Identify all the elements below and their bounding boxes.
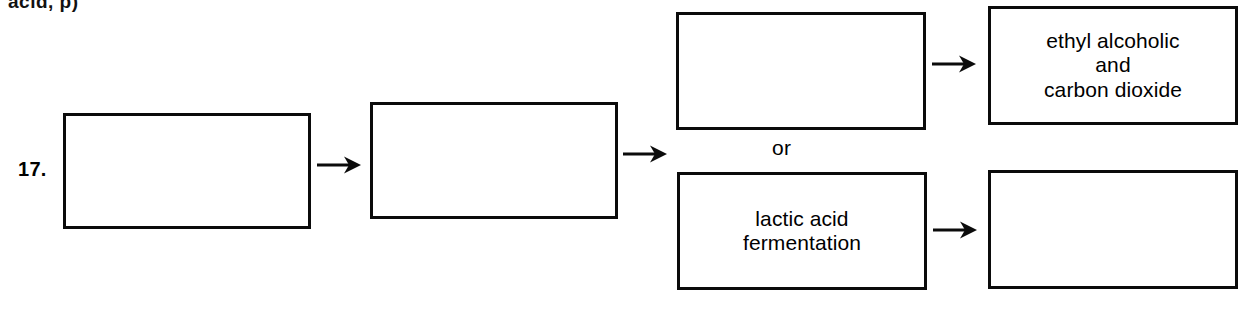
label-box-ethyl-alcohol-carbon-dioxide[interactable]: ethyl alcoholic and carbon dioxide bbox=[988, 6, 1238, 125]
answer-box-3[interactable] bbox=[676, 12, 926, 130]
cut-off-text-fragment: acid, p) bbox=[8, 0, 79, 13]
label-box-lactic-acid-fermentation-text: lactic acid fermentation bbox=[737, 207, 867, 256]
answer-box-6[interactable] bbox=[988, 170, 1238, 289]
answer-box-2[interactable] bbox=[370, 102, 618, 219]
arrow-right-icon-2 bbox=[622, 143, 670, 165]
arrow-right-icon-1 bbox=[316, 154, 364, 176]
item-number-label: 17. bbox=[18, 158, 47, 181]
label-box-lactic-acid-fermentation[interactable]: lactic acid fermentation bbox=[677, 172, 927, 290]
label-box-ethyl-alcohol-carbon-dioxide-text: ethyl alcoholic and carbon dioxide bbox=[1038, 29, 1188, 102]
branch-or-label: or bbox=[772, 136, 791, 160]
worksheet-page: acid, p) 17. ethyl alcoholic and carbon … bbox=[0, 0, 1254, 324]
arrow-right-icon-4 bbox=[932, 219, 980, 241]
answer-box-1[interactable] bbox=[63, 113, 311, 229]
arrow-right-icon-3 bbox=[931, 53, 979, 75]
